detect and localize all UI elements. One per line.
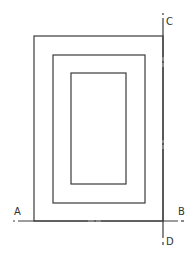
inner-rectangle — [71, 73, 126, 184]
label-c: C — [166, 16, 173, 27]
section-diagram: A B C D — [0, 0, 195, 261]
middle-rectangle — [53, 55, 145, 203]
label-b: B — [178, 206, 185, 217]
label-a: A — [14, 206, 21, 217]
label-d: D — [166, 236, 174, 247]
